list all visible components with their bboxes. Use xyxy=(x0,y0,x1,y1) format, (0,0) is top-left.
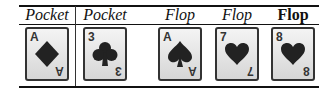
card-eight-of-hearts: 8 8 xyxy=(271,27,315,81)
card-seven-of-hearts: 7 7 xyxy=(215,27,259,81)
card-ace-of-diamonds: A A xyxy=(25,27,69,81)
header-flop-1: Flop xyxy=(152,6,208,24)
card-rank-inverted: 7 xyxy=(247,65,254,77)
card-three-of-clubs: 3 3 xyxy=(83,27,127,81)
card-ace-of-spades: A A xyxy=(158,27,202,81)
heart-icon xyxy=(280,42,306,66)
card-rank-inverted: A xyxy=(55,65,64,77)
header-flop-2: Flop xyxy=(210,6,264,24)
table-bottom-border xyxy=(19,86,319,88)
header-flop-3: Flop xyxy=(266,6,320,24)
card-rank-inverted: A xyxy=(188,65,197,77)
card-rank-inverted: 8 xyxy=(303,65,310,77)
header-pocket-1: Pocket xyxy=(19,6,75,24)
card-rank-inverted: 3 xyxy=(115,65,122,77)
heart-icon xyxy=(224,42,250,66)
header-divider xyxy=(19,24,319,25)
header-pocket-2: Pocket xyxy=(76,6,134,24)
